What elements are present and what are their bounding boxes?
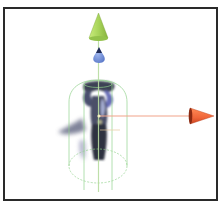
z-axis-handle[interactable] <box>92 46 106 64</box>
character-object[interactable] <box>68 80 128 180</box>
y-axis-handle[interactable] <box>88 12 110 42</box>
x-axis-handle[interactable] <box>188 106 215 126</box>
